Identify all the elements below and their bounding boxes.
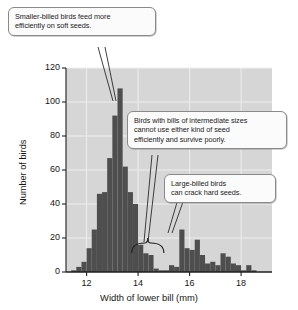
histogram-bar (102, 192, 107, 272)
y-tick-label-80: 80 (34, 130, 60, 140)
x-tick-label-14: 14 (123, 278, 153, 288)
histogram-bar (92, 230, 97, 273)
y-axis-label: Number of birds (18, 140, 28, 205)
histogram-plot (0, 0, 298, 310)
histogram-bar (190, 250, 195, 272)
x-tick-label-18: 18 (226, 278, 256, 288)
callout-intermediate-line3: efficiently and survive poorly. (134, 135, 280, 144)
histogram-bar (205, 264, 210, 273)
callout-large-billed-birds: Large-billed birds can crack hard seeds. (164, 174, 276, 203)
histogram-bar (174, 267, 179, 272)
histogram-bar (195, 240, 200, 272)
histogram-bar (138, 245, 143, 272)
histogram-bar (179, 230, 184, 273)
histogram-bar (133, 204, 138, 272)
histogram-bar (210, 262, 215, 272)
y-tick-label-0: 0 (34, 266, 60, 276)
callout-intermediate-line1: Birds with bills of intermediate sizes (134, 116, 280, 125)
callout-intermediate-bills: Birds with bills of intermediate sizes c… (127, 111, 287, 149)
histogram-bar (128, 192, 133, 272)
callout-hard-seeds-line2: can crack hard seeds. (171, 188, 269, 197)
histogram-bar (118, 88, 123, 272)
y-tick-label-40: 40 (34, 198, 60, 208)
histogram-bar (236, 265, 241, 272)
y-tick-label-20: 20 (34, 232, 60, 242)
callout-intermediate-line2: cannot use either kind of seed (134, 125, 280, 134)
x-tick-label-16: 16 (175, 278, 205, 288)
callout-soft-seeds-line2: efficiently on soft seeds. (15, 21, 149, 30)
y-tick-label-120: 120 (34, 62, 60, 72)
histogram-bar (169, 265, 174, 272)
histogram-bar (215, 265, 220, 272)
x-tick-label-12: 12 (72, 278, 102, 288)
histogram-bar (107, 158, 112, 272)
histogram-bar (81, 262, 86, 272)
histogram-bar (148, 255, 153, 272)
histogram-bar (112, 116, 117, 272)
histogram-bar (226, 257, 231, 272)
x-axis-label: Width of lower bill (mm) (0, 292, 298, 303)
y-tick-label-100: 100 (34, 96, 60, 106)
histogram-bar (123, 167, 128, 272)
y-tick-label-60: 60 (34, 164, 60, 174)
histogram-bar (246, 265, 251, 272)
histogram-bar (143, 253, 148, 272)
histogram-bar (76, 267, 81, 272)
histogram-bar (221, 253, 226, 272)
bird-bill-histogram-figure: 120 100 80 60 40 20 0 12 14 16 18 Number… (0, 0, 298, 310)
histogram-bar (200, 255, 205, 272)
callout-hard-seeds-line1: Large-billed birds (171, 179, 269, 188)
histogram-bar (184, 248, 189, 272)
histogram-bar (231, 264, 236, 273)
callout-soft-seeds-line1: Smaller-billed birds feed more (15, 12, 149, 21)
histogram-bar (97, 194, 102, 272)
callout-smaller-billed-birds: Smaller-billed birds feed more efficient… (8, 7, 156, 36)
y-axis-ticks (62, 68, 66, 272)
histogram-bar (87, 248, 92, 272)
